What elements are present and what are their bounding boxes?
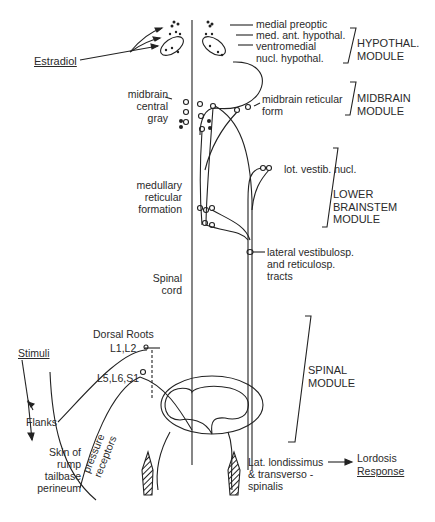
- midbrain-neurons: [184, 100, 253, 226]
- label-flanks: Flanks: [26, 416, 57, 428]
- estradiol-arrows: [80, 28, 162, 60]
- label-l1-l2: L1,L2: [110, 342, 136, 354]
- midbrain-bracket: [345, 82, 356, 115]
- label-ventromedial: ventromedial nucl. hypothal.: [256, 40, 324, 64]
- label-midbrain-reticular-form: midbrain reticular form: [262, 93, 343, 117]
- left-hypothalamic-nucleus: [157, 33, 186, 59]
- label-midbrain-module: MIDBRAIN MODULE: [357, 92, 411, 117]
- label-medullary-reticular-formation: medullary reticular formation: [110, 179, 182, 215]
- left-muscle: [142, 452, 153, 495]
- label-spinal-module: SPINAL MODULE: [308, 364, 355, 389]
- label-response: Response: [357, 465, 404, 477]
- right-hypothalamic-nucleus: [199, 33, 228, 59]
- label-hypothal-module: HYPOTHAL. MODULE: [357, 37, 419, 62]
- label-l5-l6-s1: L5,L6,S1: [97, 372, 139, 384]
- label-spinal-cord: Spinal cord: [130, 272, 182, 296]
- label-lateral-tracts: lateral vestibulosp. and reticulosp. tra…: [267, 246, 354, 282]
- label-lower-brainstem-module: LOWER BRAINSTEM MODULE: [333, 188, 397, 226]
- label-lat-vestib-nucl: lot. vestib. nucl.: [284, 163, 356, 175]
- descending-tract: [248, 200, 252, 470]
- label-dorsal-roots: Dorsal Roots: [93, 328, 154, 340]
- label-estradiol: Estradiol: [34, 55, 77, 67]
- right-muscle: [228, 452, 240, 495]
- label-skin-of: Skin of rump tailbase perineum: [15, 446, 81, 494]
- label-muscles: Lat. londissimus & transverso - spinalis: [248, 456, 323, 492]
- label-lordosis: Lordosis: [357, 452, 397, 464]
- label-midbrain-central-gray: midbrain central gray: [110, 88, 168, 124]
- label-stimuli: Stimuli: [18, 347, 50, 359]
- lordosis-circuit-diagram: [0, 0, 435, 522]
